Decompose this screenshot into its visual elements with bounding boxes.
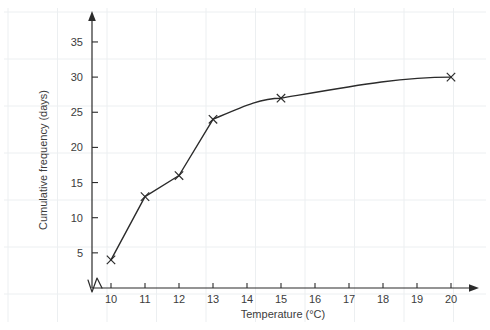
- y-axis-title: Cumulative frequency (days): [37, 90, 49, 230]
- x-tick-label: 12: [173, 293, 185, 305]
- y-tick-label: 10: [71, 212, 83, 224]
- x-tick-label: 17: [343, 293, 355, 305]
- y-tick-label: 30: [71, 71, 83, 83]
- x-tick-label: 18: [377, 293, 389, 305]
- x-axis-title: Temperature (°C): [241, 308, 325, 320]
- x-tick-label: 19: [411, 293, 423, 305]
- cumulative-frequency-chart: 1011121314151617181920 5101520253035 Tem…: [0, 0, 490, 330]
- y-tick-label: 20: [71, 141, 83, 153]
- figure-background: [0, 0, 490, 330]
- y-tick-label: 35: [71, 36, 83, 48]
- chart-figure: 1011121314151617181920 5101520253035 Tem…: [0, 0, 490, 330]
- x-tick-label: 11: [139, 293, 150, 305]
- y-tick-label: 25: [71, 106, 83, 118]
- y-tick-label: 5: [77, 247, 83, 259]
- x-tick-label: 14: [241, 293, 253, 305]
- x-tick-label: 16: [309, 293, 321, 305]
- x-tick-label: 10: [105, 293, 117, 305]
- x-tick-label: 13: [207, 293, 219, 305]
- y-tick-label: 15: [71, 177, 83, 189]
- x-tick-label: 15: [275, 293, 287, 305]
- x-tick-label: 20: [445, 293, 457, 305]
